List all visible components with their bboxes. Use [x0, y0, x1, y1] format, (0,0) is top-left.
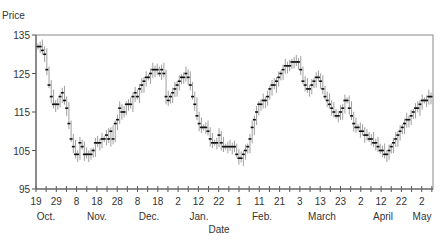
month-label: April: [373, 211, 393, 222]
y-tick-label: 135: [13, 30, 30, 41]
y-tick-label: 125: [13, 69, 30, 80]
x-tick-label: 2: [175, 196, 181, 207]
price-chart: Price 95105115125135 1929818288182122211…: [0, 0, 447, 246]
x-axis-title: Date: [208, 224, 230, 235]
x-tick-label: 2: [358, 196, 364, 207]
month-label: Jan.: [190, 211, 209, 222]
month-label: Dec.: [139, 211, 160, 222]
x-tick-label: 13: [315, 196, 327, 207]
month-label: Nov.: [87, 211, 107, 222]
y-tick-label: 105: [13, 146, 30, 157]
x-tick-label: 8: [74, 196, 80, 207]
price-series: [37, 40, 433, 166]
y-tick-label: 115: [14, 107, 30, 118]
x-tick-label: 19: [30, 196, 42, 207]
y-tick-label: 95: [19, 184, 31, 195]
x-tick-label: 22: [396, 196, 408, 207]
month-labels: Oct.Nov.Dec.Jan.Feb.MarchAprilMay: [37, 211, 432, 222]
x-tick-label: 23: [335, 196, 347, 207]
x-tick-label: 11: [254, 196, 265, 207]
x-tick-label: 2: [419, 196, 425, 207]
y-axis-title: Price: [2, 10, 25, 21]
x-tick-label: 29: [51, 196, 63, 207]
x-tick-label: 1: [236, 196, 242, 207]
x-tick-label: 12: [193, 196, 205, 207]
month-label: Oct.: [37, 211, 55, 222]
x-tick-label: 8: [135, 196, 141, 207]
x-tick-label: 3: [297, 196, 303, 207]
month-label: Feb.: [252, 211, 272, 222]
y-axis: 95105115125135: [13, 30, 36, 195]
x-tick-label: 21: [274, 196, 286, 207]
x-tick-label: 18: [152, 196, 164, 207]
x-tick-label: 12: [376, 196, 388, 207]
month-label: March: [308, 211, 336, 222]
plot-frame: [36, 35, 433, 189]
month-label: May: [413, 211, 432, 222]
x-tick-label: 28: [112, 196, 124, 207]
x-tick-label: 22: [213, 196, 225, 207]
x-tick-label: 18: [91, 196, 103, 207]
